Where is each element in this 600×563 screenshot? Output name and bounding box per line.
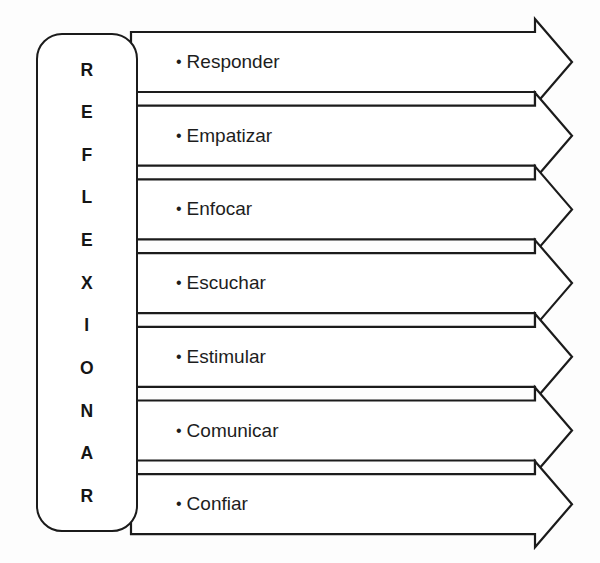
acronym-letter: A (38, 445, 136, 463)
arrow-label-text: Responder (187, 51, 280, 72)
arrow-label: •Empatizar (176, 126, 272, 145)
arrow-label: •Escuchar (176, 273, 266, 292)
arrow-label: •Responder (176, 52, 280, 71)
acronym-letter: X (38, 275, 136, 293)
acronym-letter: R (38, 488, 136, 506)
arrow-label: •Enfocar (176, 199, 252, 218)
acronym-letter: E (38, 232, 136, 250)
arrow-label: •Comunicar (176, 421, 278, 440)
bullet-icon: • (176, 200, 182, 217)
acronym-letter-column: REFLEXIONAR (38, 35, 136, 530)
bullet-icon: • (176, 422, 182, 439)
acronym-letter: I (38, 317, 136, 335)
arrow-label: •Estimular (176, 347, 266, 366)
arrow-label-text: Empatizar (187, 125, 273, 146)
arrow-label-text: Escuchar (187, 272, 266, 293)
arrow-label-text: Comunicar (187, 420, 279, 441)
reflexionar-diagram: REFLEXIONAR •Responder•Empatizar•Enfocar… (0, 0, 600, 563)
bullet-icon: • (176, 274, 182, 291)
acronym-letter: N (38, 403, 136, 421)
bullet-icon: • (176, 495, 182, 512)
acronym-box: REFLEXIONAR (36, 33, 138, 532)
bullet-icon: • (176, 53, 182, 70)
bullet-icon: • (176, 348, 182, 365)
arrow-label: •Confiar (176, 494, 248, 513)
acronym-letter: F (38, 147, 136, 165)
acronym-letter: R (38, 62, 136, 80)
arrow-label-text: Estimular (187, 346, 266, 367)
bullet-icon: • (176, 127, 182, 144)
acronym-letter: E (38, 104, 136, 122)
acronym-letter: L (38, 189, 136, 207)
arrow-label-text: Confiar (187, 493, 248, 514)
acronym-letter: O (38, 360, 136, 378)
arrow-label-text: Enfocar (187, 198, 252, 219)
